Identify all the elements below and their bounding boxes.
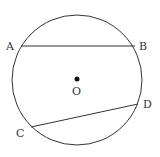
label-a: A [5, 40, 15, 53]
label-o: O [72, 85, 81, 98]
label-c: C [16, 127, 24, 140]
chord-cd [31, 104, 138, 127]
label-b: B [139, 40, 147, 53]
label-d: D [143, 98, 152, 111]
circle-chord-diagram: A B O C D [0, 0, 160, 157]
center-point-o [75, 77, 80, 82]
